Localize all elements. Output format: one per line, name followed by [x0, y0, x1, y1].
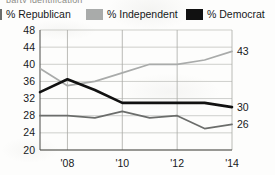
x-tick-label: '14 — [225, 157, 239, 169]
y-tick-label: 24 — [23, 126, 35, 138]
horizontal-gridlines — [40, 30, 232, 150]
y-tick-label: 32 — [23, 92, 35, 104]
y-tick-label: 36 — [23, 75, 35, 87]
legend-label-independent: % Independent — [107, 9, 178, 20]
line-chart-svg: 4844403632282420 '08'10'12'14 433026 — [0, 22, 275, 175]
y-tick-label: 48 — [23, 24, 35, 36]
y-tick-label: 40 — [23, 58, 35, 70]
plot-area: 4844403632282420 '08'10'12'14 433026 — [0, 22, 275, 175]
data-series-group — [40, 51, 232, 128]
y-axis-tick-labels: 4844403632282420 — [23, 24, 35, 156]
legend-label-democrat: % Democrat — [207, 9, 265, 20]
x-tick-label: '12 — [170, 157, 184, 169]
end-label-democrat: 30 — [237, 101, 249, 113]
legend-label-republican: % Republican — [6, 9, 71, 20]
series-line-democrat — [40, 79, 232, 107]
x-axis-tick-labels: '08'10'12'14 — [61, 157, 239, 169]
legend-swatch-independent — [86, 9, 103, 20]
x-tick-label: '08 — [61, 157, 75, 169]
series-end-labels: 433026 — [237, 45, 249, 130]
chart-legend: % Republican % Independent % Democrat — [0, 7, 275, 21]
legend-item-democrat: % Democrat — [186, 7, 265, 21]
end-label-republican: 26 — [237, 118, 249, 130]
chart-container: party identification % Republican % Inde… — [0, 0, 275, 175]
clipped-headline-text: party identification — [6, 0, 83, 3]
legend-item-independent: % Independent — [86, 7, 178, 21]
y-tick-label: 44 — [23, 41, 35, 53]
legend-swatch-republican — [0, 9, 2, 20]
axis-lines — [40, 30, 232, 150]
legend-item-republican: % Republican — [0, 7, 71, 21]
y-tick-label: 28 — [23, 109, 35, 121]
y-tick-label: 20 — [23, 144, 35, 156]
series-line-republican — [40, 111, 232, 128]
x-tick-label: '10 — [115, 157, 129, 169]
end-label-independent: 43 — [237, 45, 249, 57]
legend-swatch-democrat — [186, 9, 203, 20]
